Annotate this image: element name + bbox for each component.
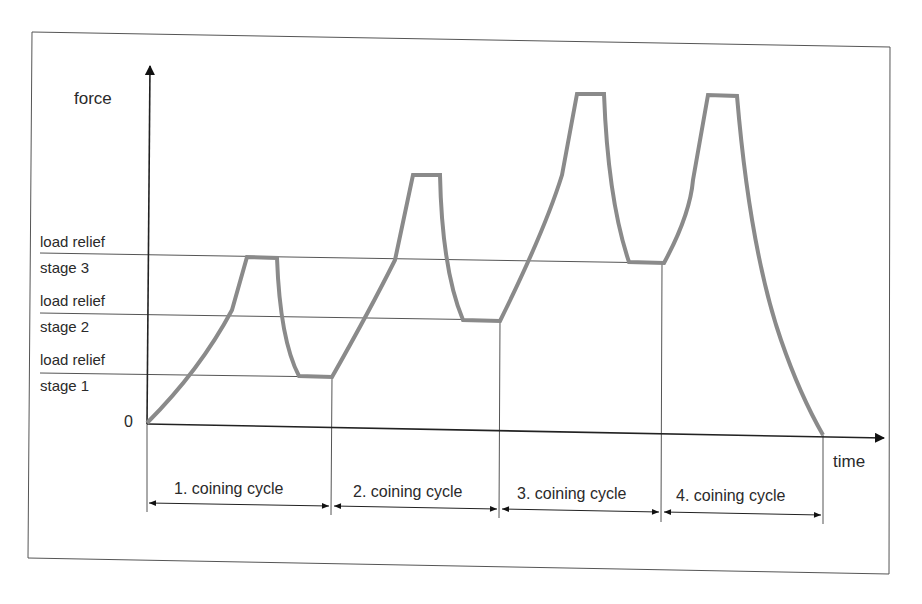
origin-label: 0 xyxy=(124,413,133,430)
load-relief-stage3-line xyxy=(40,253,662,263)
stage2-label-line1: load relief xyxy=(40,292,106,309)
stage3-label-line1: load relief xyxy=(40,233,106,250)
cycle-divider-2 xyxy=(499,320,500,518)
stage1-label-line2: stage 1 xyxy=(40,377,89,394)
stage3-label-line2: stage 3 xyxy=(40,259,89,276)
cycle3-dimension xyxy=(502,509,659,512)
cycle2-dimension xyxy=(334,506,497,509)
cycle1-dimension xyxy=(149,503,329,506)
x-axis xyxy=(147,424,884,438)
stage1-label-line1: load relief xyxy=(40,351,106,368)
cycle3-label: 3. coining cycle xyxy=(517,485,626,502)
cycle4-label: 4. coining cycle xyxy=(676,487,785,504)
y-axis xyxy=(147,66,150,424)
coining-force-chart: force time 0 load relief stage 3 load re… xyxy=(0,0,922,604)
cycle4-dimension xyxy=(664,512,821,515)
cycle-divider-3 xyxy=(661,263,662,522)
force-curve xyxy=(147,94,823,435)
cycle2-label: 2. coining cycle xyxy=(353,483,462,500)
cycle-divider-1 xyxy=(331,377,332,515)
stage2-label-line2: stage 2 xyxy=(40,318,89,335)
x-axis-label: time xyxy=(833,452,865,471)
load-relief-stage2-line xyxy=(40,313,500,320)
cycle1-label: 1. coining cycle xyxy=(174,480,283,497)
y-axis-label: force xyxy=(74,89,112,108)
